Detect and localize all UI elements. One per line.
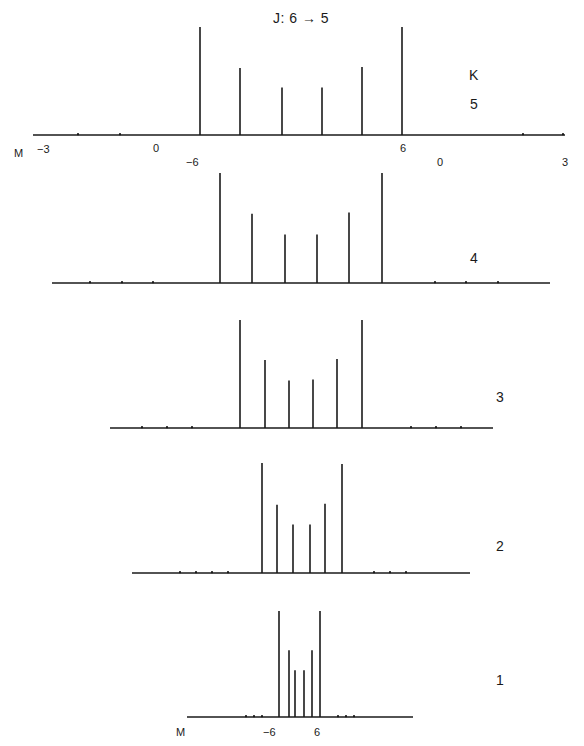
axis-tick [89,281,91,283]
panel-k-2 [132,463,470,573]
title-to: 5 [321,10,329,26]
k-axis-header: K [469,67,478,83]
tick-label: −6 [186,156,199,169]
axis-tick [353,715,355,717]
panel-k-3 [110,320,493,428]
axis-tick [77,133,79,135]
chart-title: J: 6 → 5 [273,10,329,26]
m-axis-label-bottom: M [176,726,185,739]
axis-tick [211,571,213,573]
k-value-label: 5 [470,96,478,112]
axis-tick [119,133,121,135]
axis-tick [166,426,168,428]
m-axis-label-top: M [14,147,23,160]
tick-label: 0 [153,142,159,155]
axis-tick [337,715,339,717]
axis-tick [389,571,391,573]
panel-k-1 [187,611,413,717]
title-from: 6 [289,10,297,26]
tick-label: −3 [37,143,50,156]
k-value-label: 3 [496,389,504,405]
axis-tick [434,281,436,283]
axis-tick [261,715,263,717]
panel-k-5 [33,27,565,135]
axis-tick [195,571,197,573]
axis-tick [522,133,524,135]
axis-tick [191,426,193,428]
k-value-label: 4 [470,250,478,266]
title-j: J: [273,10,285,26]
axis-tick [465,281,467,283]
axis-tick [152,281,154,283]
axis-tick [562,133,564,135]
tick-label: 6 [314,726,320,739]
axis-tick [410,426,412,428]
k-value-label: 2 [496,538,504,554]
axis-tick [245,715,247,717]
axis-tick [497,281,499,283]
tick-label: 3 [562,156,568,169]
tick-label: −6 [263,726,276,739]
axis-tick [141,426,143,428]
axis-tick [227,571,229,573]
stick-spectra-plot [0,0,584,746]
axis-tick [405,571,407,573]
axis-tick [460,426,462,428]
tick-label: 0 [437,156,443,169]
panel-k-4 [52,173,550,283]
tick-label: 6 [400,142,406,155]
arrow-icon: → [302,10,317,26]
axis-tick [345,715,347,717]
axis-tick [121,281,123,283]
k-value-label: 1 [496,672,504,688]
axis-tick [253,715,255,717]
axis-tick [435,426,437,428]
axis-tick [179,571,181,573]
axis-tick [373,571,375,573]
